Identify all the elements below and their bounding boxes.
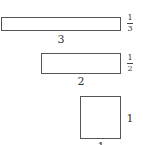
rectangle-a-height-fraction: 1 3 — [126, 14, 134, 33]
fraction-denominator: 3 — [127, 25, 132, 33]
rectangle-b-width-label: 2 — [76, 76, 86, 87]
square-height-label: 1 — [125, 113, 135, 124]
square-width-label: 1 — [96, 141, 106, 145]
rectangle-3-by-one-third — [1, 17, 121, 31]
fraction-numerator: 1 — [127, 14, 132, 22]
unit-square — [80, 96, 121, 139]
fraction-numerator: 1 — [127, 54, 132, 62]
rectangle-a-width-label: 3 — [56, 34, 66, 45]
rectangle-2-by-one-half — [41, 53, 121, 74]
rectangle-b-height-fraction: 1 2 — [126, 54, 134, 73]
fraction-denominator: 2 — [127, 65, 132, 73]
